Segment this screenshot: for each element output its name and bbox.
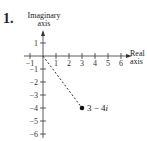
svg-text:−1: −1 bbox=[29, 65, 38, 74]
svg-text:5: 5 bbox=[106, 59, 110, 68]
svg-text:2: 2 bbox=[67, 59, 71, 68]
real-axis-arrow-icon bbox=[126, 54, 132, 58]
complex-plane-diagram: −1 1 2 3 4 5 6 1 −1 −2 −3 −4 −5 −6 3 − 4… bbox=[0, 0, 147, 141]
svg-text:4: 4 bbox=[93, 59, 97, 68]
point-label: 3 − 4i bbox=[87, 103, 109, 113]
dashed-vector bbox=[43, 56, 82, 108]
svg-text:6: 6 bbox=[119, 59, 123, 68]
svg-text:−2: −2 bbox=[29, 78, 38, 87]
svg-text:1: 1 bbox=[54, 59, 58, 68]
point-marker bbox=[80, 106, 85, 111]
svg-text:−4: −4 bbox=[29, 104, 38, 113]
svg-text:−3: −3 bbox=[29, 91, 38, 100]
svg-text:−6: −6 bbox=[29, 130, 38, 139]
svg-text:1: 1 bbox=[34, 39, 38, 48]
imaginary-axis-arrow-icon bbox=[41, 30, 45, 36]
y-tick-labels: 1 −1 −2 −3 −4 −5 −6 bbox=[29, 39, 38, 139]
svg-text:−5: −5 bbox=[29, 117, 38, 126]
x-tick-labels: −1 1 2 3 4 5 6 bbox=[26, 59, 123, 68]
svg-text:3: 3 bbox=[80, 59, 84, 68]
